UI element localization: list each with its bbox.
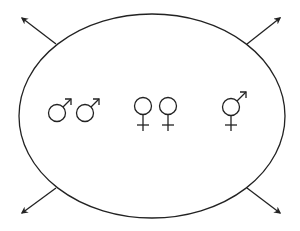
female-symbol-icon — [135, 98, 152, 132]
male-female-symbol-icon — [223, 92, 247, 131]
male-symbol-icon — [77, 99, 100, 122]
male-pair-group — [49, 99, 100, 122]
arrow-bottom-right — [247, 188, 280, 213]
female-symbol-icon — [160, 98, 177, 132]
diagram-canvas — [0, 0, 300, 231]
arrow-bottom-left — [22, 188, 56, 213]
arrow-top-right — [247, 18, 280, 44]
arrow-top-left — [22, 18, 56, 44]
male-symbol-icon — [49, 99, 72, 122]
female-pair-group — [135, 98, 177, 132]
population-ellipse — [19, 14, 285, 218]
